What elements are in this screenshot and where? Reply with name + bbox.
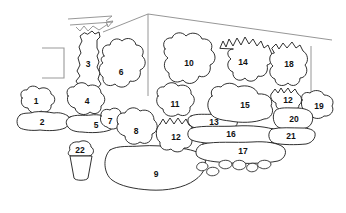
region-label-14: 14	[238, 58, 247, 67]
region-label-7: 7	[108, 117, 113, 126]
arrow-marker-group	[68, 16, 113, 31]
region-label-15: 15	[240, 101, 249, 110]
region-label-22: 22	[75, 146, 84, 155]
region-label-9: 9	[154, 170, 159, 179]
region-label-10: 10	[184, 59, 193, 68]
region-label-1: 1	[34, 97, 39, 106]
region-label-16: 16	[226, 130, 235, 139]
arrow-shaft-upper	[68, 16, 112, 21]
region-label-17: 17	[238, 147, 247, 156]
region-label-20: 20	[289, 115, 298, 124]
region-label-2: 2	[40, 118, 45, 127]
region-label-12-right: 12	[283, 96, 292, 105]
garden-plan-canvas: 1 2 3 4 5 6 7 8 9 10 11 12 13 14 15 16 1…	[0, 0, 346, 213]
region-label-19: 19	[314, 102, 323, 111]
region-label-3: 3	[86, 60, 91, 69]
wall-left-edge-line	[103, 14, 148, 32]
pot-body	[70, 156, 92, 180]
arrow-head-triangle	[106, 21, 113, 27]
region-6-shape[interactable]	[99, 38, 145, 87]
stone-4	[233, 160, 246, 169]
left-frame-group	[42, 48, 64, 78]
region-label-6: 6	[119, 68, 124, 77]
stone-2	[207, 167, 219, 176]
stone-5	[247, 163, 258, 172]
window-frame-outline	[42, 48, 64, 78]
region-label-18: 18	[284, 60, 293, 69]
stone-1	[197, 162, 208, 171]
region-label-21: 21	[286, 132, 295, 141]
region-label-11: 11	[171, 100, 180, 109]
region-label-13: 13	[209, 118, 218, 127]
stone-6	[258, 160, 271, 169]
stones-group	[197, 160, 271, 176]
arrow-zigzag	[76, 24, 108, 31]
stone-3	[219, 160, 232, 169]
region-label-12: 12	[171, 133, 180, 142]
region-label-8: 8	[134, 127, 139, 136]
region-label-5: 5	[94, 121, 99, 130]
region-label-4: 4	[85, 97, 90, 106]
